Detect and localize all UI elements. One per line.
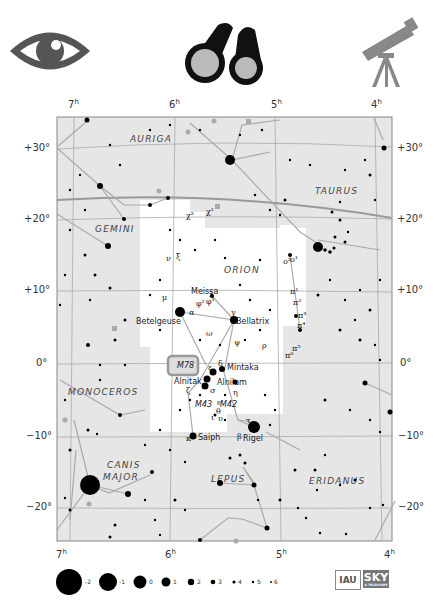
svg-text:ψ: ψ bbox=[234, 338, 240, 347]
svg-text:-1: -1 bbox=[119, 578, 125, 585]
iau-logo: IAU bbox=[335, 570, 361, 590]
constellation-gemini: GEMINI bbox=[95, 224, 135, 234]
label-m42: M42 bbox=[220, 400, 237, 409]
dec-label-left-10: +10° bbox=[24, 284, 50, 295]
label-m43: M43 bbox=[195, 400, 212, 409]
ra-label-bottom-5h: 5h bbox=[276, 548, 287, 560]
svg-text:ξ: ξ bbox=[176, 252, 181, 261]
dec-label-left-30: +30° bbox=[24, 142, 50, 153]
constellation-monoceros: MONOCEROS bbox=[68, 387, 139, 397]
svg-text:χ¹: χ¹ bbox=[206, 207, 214, 216]
star-chart: AURIGA TAURUS GEMINI ORION MONOCEROS CAN… bbox=[0, 0, 434, 566]
label-alnitak: Alnitak bbox=[174, 377, 202, 386]
svg-text:π⁶: π⁶ bbox=[285, 351, 293, 360]
svg-text:θ: θ bbox=[216, 407, 221, 416]
ra-label-top-4h: 4h bbox=[371, 98, 382, 110]
constellation-orion: ORION bbox=[224, 265, 260, 275]
label-bellatrix: Bellatrix bbox=[236, 317, 269, 326]
svg-text:0: 0 bbox=[149, 578, 153, 585]
dec-label-left-0: 0° bbox=[36, 357, 47, 368]
ra-label-top-6h: 6h bbox=[169, 98, 180, 110]
dec-label-right-m20: −20° bbox=[398, 501, 424, 512]
label-m78: M78 bbox=[177, 361, 194, 370]
svg-text:3: 3 bbox=[218, 578, 222, 585]
svg-text:φ¹: φ¹ bbox=[206, 297, 215, 306]
svg-text:2: 2 bbox=[197, 578, 201, 585]
label-alnilam: Alnilam bbox=[217, 378, 247, 387]
label-rigel: Rigel bbox=[243, 434, 263, 443]
svg-text:φ²: φ² bbox=[196, 299, 205, 308]
svg-text:μ: μ bbox=[162, 293, 167, 302]
magnitude-legend: -2 -1 0 1 2 3 4 5 6 bbox=[56, 568, 296, 598]
svg-text:π³: π³ bbox=[298, 311, 306, 320]
orion-region bbox=[140, 200, 306, 432]
svg-text:π²: π² bbox=[293, 298, 301, 307]
sky-logo-subtext: & TELESCOPE bbox=[365, 583, 388, 587]
label-mintaka: Mintaka bbox=[227, 363, 259, 372]
constellation-canis-major-1: CANIS bbox=[107, 460, 141, 470]
svg-text:-2: -2 bbox=[85, 578, 91, 585]
svg-text:γ: γ bbox=[231, 308, 236, 317]
label-betelgeuse: Betelgeuse bbox=[136, 317, 181, 326]
svg-text:ω: ω bbox=[206, 329, 213, 338]
ra-label-top-7h: 7h bbox=[68, 98, 79, 110]
ra-label-bottom-6h: 6h bbox=[165, 548, 176, 560]
label-meissa: Meissa bbox=[191, 287, 218, 296]
label-saiph: Saiph bbox=[198, 433, 220, 442]
svg-text:ρ: ρ bbox=[262, 341, 267, 350]
svg-text:α: α bbox=[189, 308, 195, 317]
svg-text:π¹: π¹ bbox=[290, 287, 298, 296]
svg-text:6: 6 bbox=[274, 578, 278, 585]
ra-label-top-5h: 5h bbox=[271, 98, 282, 110]
svg-text:β: β bbox=[237, 432, 242, 441]
constellation-lepus: LEPUS bbox=[211, 474, 245, 484]
constellation-auriga: AURIGA bbox=[129, 134, 172, 144]
ra-label-bottom-7h: 7h bbox=[56, 548, 67, 560]
dec-label-right-0: 0° bbox=[400, 357, 411, 368]
constellation-taurus: TAURUS bbox=[315, 186, 358, 196]
svg-text:η: η bbox=[233, 388, 238, 397]
publisher-logos: IAU SKY & TELESCOPE bbox=[335, 570, 389, 590]
svg-text:ν: ν bbox=[166, 254, 171, 263]
svg-text:4: 4 bbox=[238, 578, 242, 585]
dec-label-right-10: +10° bbox=[397, 284, 423, 295]
dec-label-right-m10: −10° bbox=[398, 430, 424, 441]
svg-text:σ: σ bbox=[210, 386, 216, 395]
sky-logo-text: SKY bbox=[364, 572, 388, 583]
svg-text:ζ: ζ bbox=[186, 386, 191, 395]
svg-text:5: 5 bbox=[257, 578, 261, 585]
sky-telescope-logo: SKY & TELESCOPE bbox=[363, 570, 389, 588]
ra-label-bottom-4h: 4h bbox=[384, 548, 395, 560]
dec-label-left-20: +20° bbox=[24, 213, 50, 224]
svg-text:1: 1 bbox=[173, 578, 177, 585]
dec-label-right-30: +30° bbox=[397, 142, 423, 153]
dec-label-left-m20: −20° bbox=[26, 501, 52, 512]
dec-label-left-m10: −10° bbox=[26, 430, 52, 441]
svg-text:χ²: χ² bbox=[186, 211, 194, 220]
constellation-eridanus: ERIDANUS bbox=[309, 476, 365, 486]
constellation-canis-major-2: MAJOR bbox=[103, 472, 139, 482]
dec-label-right-20: +20° bbox=[397, 213, 423, 224]
